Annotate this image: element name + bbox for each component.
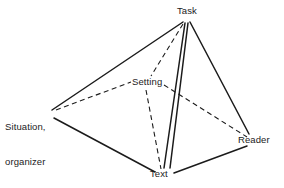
solid-edges-group — [52, 22, 249, 173]
node-label-situation-line2: organizer — [5, 156, 46, 168]
diagram-canvas: Task Setting Situation, organizer Text R… — [0, 0, 284, 188]
edge-task-text-b — [170, 23, 188, 168]
node-label-text: Text — [150, 168, 168, 179]
edge-situation-text — [54, 118, 155, 172]
edge-text-reader — [174, 146, 247, 173]
edge-setting-text — [146, 90, 161, 169]
dashed-edges-group — [56, 24, 247, 169]
edge-task-situation — [52, 22, 183, 110]
edge-task-reader — [190, 22, 249, 134]
node-label-setting: Setting — [132, 76, 162, 87]
node-label-task: Task — [177, 5, 197, 16]
node-label-situation-line1: Situation, — [5, 121, 46, 133]
edge-situation-setting — [56, 82, 131, 110]
node-label-reader: Reader — [238, 134, 270, 145]
node-label-situation-organizer: Situation, organizer — [5, 98, 46, 188]
edge-task-text-a — [164, 23, 185, 168]
